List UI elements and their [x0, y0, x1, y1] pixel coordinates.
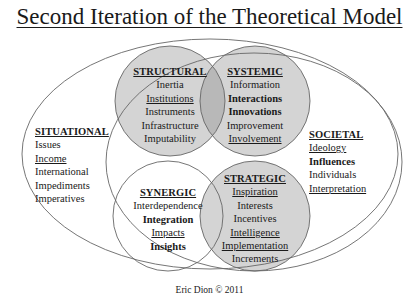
societal-heading: SOCIETAL	[309, 128, 409, 141]
term-item: Influences	[309, 155, 409, 168]
strategic-group: STRATEGIC InspirationInterestsIncentives…	[205, 172, 305, 266]
term-item: Issues	[35, 138, 135, 151]
situational-heading: SITUATIONAL	[35, 125, 135, 138]
societal-items: IdeologyInfluencesIndividualsInterpretat…	[309, 141, 409, 195]
term-item: Increments	[205, 252, 305, 265]
term-item: Information	[205, 78, 305, 91]
term-item: Intelligence	[205, 226, 305, 239]
systemic-items: InformationInteractionsInnovationsImprov…	[205, 78, 305, 145]
strategic-items: InspirationInterestsIncentivesIntelligen…	[205, 185, 305, 265]
strategic-heading: STRATEGIC	[205, 172, 305, 185]
societal-group: SOCIETAL IdeologyInfluencesIndividualsIn…	[309, 128, 409, 195]
term-item: Interests	[205, 199, 305, 212]
term-item: Incentives	[205, 212, 305, 225]
term-item: Inspiration	[205, 185, 305, 198]
term-item: Interpretation	[309, 182, 409, 195]
term-item: Ideology	[309, 141, 409, 154]
term-item: Interactions	[205, 92, 305, 105]
term-item: International	[35, 165, 135, 178]
term-item: Implementation	[205, 239, 305, 252]
term-item: Individuals	[309, 168, 409, 181]
term-item: Income	[35, 152, 135, 165]
systemic-heading: SYSTEMIC	[205, 65, 305, 78]
term-item: Improvement	[205, 119, 305, 132]
copyright-footer: Eric Dion © 2011	[0, 285, 419, 295]
systemic-group: SYSTEMIC InformationInteractionsInnovati…	[205, 65, 305, 145]
term-item: Innovations	[205, 105, 305, 118]
term-item: Involvement	[205, 132, 305, 145]
